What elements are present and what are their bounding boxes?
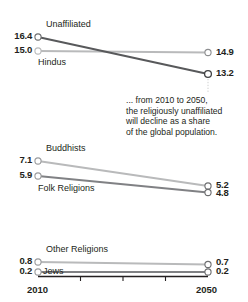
marker-buddhists-2010	[35, 158, 41, 164]
chart-canvas	[0, 0, 248, 302]
value-jews-2050: 0.2	[216, 266, 229, 276]
marker-jews-2010	[35, 269, 41, 275]
series-label-other-religions: Other Religions	[46, 244, 108, 254]
value-unaffiliated-2050: 13.2	[216, 68, 234, 78]
value-buddhists-2010: 7.1	[0, 155, 32, 165]
marker-other-religions-2050	[205, 261, 211, 267]
value-hindus-2010: 15.0	[0, 45, 32, 55]
series-label-folk-religions: Folk Religions	[38, 183, 95, 193]
chart-annotation: ... from 2010 to 2050, the religiously u…	[126, 95, 244, 137]
x-axis-label-end: 2050	[196, 284, 217, 295]
value-folk-religions-2010: 5.9	[0, 170, 32, 180]
line-other-religions	[38, 262, 208, 265]
value-jews-2010: 0.2	[0, 266, 32, 276]
line-unaffiliated	[38, 37, 208, 74]
x-axis-label-start: 2010	[27, 284, 48, 295]
marker-folk-religions-2010	[35, 173, 41, 179]
marker-jews-2050	[205, 269, 211, 275]
value-hindus-2050: 14.9	[216, 47, 234, 57]
panel-top-lines	[38, 37, 208, 74]
marker-other-religions-2010	[35, 259, 41, 265]
series-label-hindus: Hindus	[38, 57, 66, 67]
marker-hindus-2050	[205, 49, 211, 55]
series-label-unaffiliated: Unaffiliated	[46, 19, 91, 29]
marker-unaffiliated-2050	[205, 71, 212, 78]
line-hindus	[38, 51, 208, 53]
x-axis	[38, 277, 208, 282]
series-label-buddhists: Buddhists	[46, 143, 86, 153]
marker-unaffiliated-2010	[35, 34, 41, 40]
value-folk-religions-2050: 4.8	[216, 188, 229, 198]
series-label-jews: Jews	[43, 266, 64, 276]
marker-folk-religions-2050	[205, 189, 211, 195]
line-chart: Unaffiliated 16.4 13.2 15.0 Hindus 14.9 …	[0, 0, 248, 302]
marker-buddhists-2050	[205, 183, 211, 189]
value-unaffiliated-2010: 16.4	[0, 31, 32, 41]
marker-hindus-2010	[35, 48, 41, 54]
